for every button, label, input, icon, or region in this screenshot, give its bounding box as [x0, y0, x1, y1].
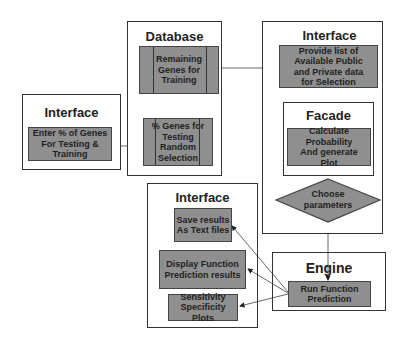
- choose-parameters-label: Choose parameters: [290, 189, 366, 211]
- output-interface-title: Interface: [148, 190, 257, 205]
- run-function-prediction-box: Run Function Prediction: [288, 281, 371, 307]
- display-function-prediction-box: Display Function Prediction results: [159, 250, 246, 289]
- save-results-box: Save results As Text files: [174, 208, 232, 242]
- sensitivity-specificity-plots-box: Sensitivity Specificity Plots: [168, 294, 238, 321]
- engine-title: Engine: [273, 260, 385, 276]
